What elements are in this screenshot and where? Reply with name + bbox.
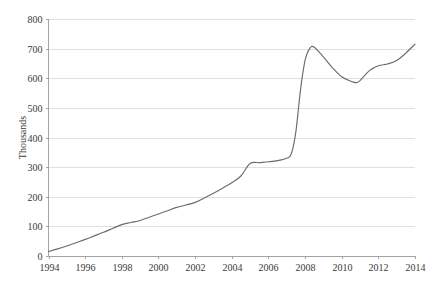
line-chart: 0100200300400500600700800 19941996199820… [0, 0, 439, 289]
y-tick-label: 500 [28, 103, 43, 114]
x-tick-label: 2008 [296, 262, 316, 273]
y-tick-label: 200 [28, 192, 43, 203]
y-axis-title: Thousands [17, 116, 28, 159]
chart-canvas: 0100200300400500600700800 19941996199820… [0, 0, 439, 289]
y-tick-label: 600 [28, 73, 43, 84]
x-tick-label: 2002 [186, 262, 206, 273]
y-tick-label: 700 [28, 44, 43, 55]
y-axis-tick-labels: 0100200300400500600700800 [28, 14, 43, 262]
y-tick-label: 800 [28, 14, 43, 25]
data-series-line [49, 44, 416, 251]
x-tick-label: 1998 [113, 262, 133, 273]
x-tick-label: 2014 [406, 262, 426, 273]
x-tick-label: 2012 [369, 262, 389, 273]
x-tick-label: 2010 [333, 262, 353, 273]
y-tick-label: 0 [38, 251, 43, 262]
x-tick-label: 1996 [76, 262, 96, 273]
x-tick-label: 2006 [259, 262, 279, 273]
x-tick-label: 2000 [149, 262, 169, 273]
gridlines [49, 20, 416, 227]
y-tick-label: 100 [28, 221, 43, 232]
x-tick-label: 2004 [223, 262, 243, 273]
y-tick-label: 400 [28, 133, 43, 144]
x-tick-label: 1994 [40, 262, 60, 273]
y-tick-label: 300 [28, 162, 43, 173]
x-axis-tick-labels: 1994199619982000200220042006200820102012… [40, 262, 426, 273]
